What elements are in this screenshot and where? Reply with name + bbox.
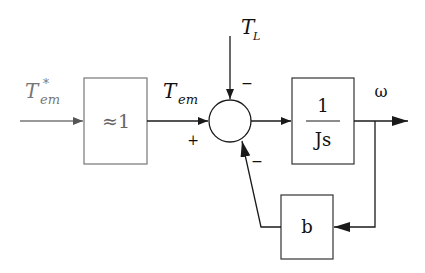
gain-block: ≈1 (84, 78, 147, 164)
svg-text:em: em (178, 92, 198, 107)
minus-sign-top: − (241, 75, 253, 91)
input-label-t-em-star: T em * (25, 77, 60, 107)
svg-text:T: T (163, 79, 178, 103)
plus-sign: + (187, 132, 199, 148)
minus-sign-bottom: − (251, 153, 263, 169)
plant-block: 1 Js (292, 78, 354, 164)
electromagnetic-torque-label: T em (163, 79, 198, 107)
damping-block-label: b (301, 216, 313, 237)
gain-block-label: ≈1 (102, 110, 130, 132)
svg-text:em: em (40, 92, 60, 107)
load-torque-label: T L (241, 15, 260, 43)
svg-text:*: * (43, 77, 49, 91)
svg-text:T: T (25, 79, 40, 103)
block-diagram: T em * ≈1 T em + T L − 1 Js ω b − (0, 0, 425, 273)
damping-block: b (281, 195, 333, 259)
plant-numerator: 1 (317, 95, 328, 116)
omega-label: ω (374, 82, 387, 101)
svg-text:L: L (252, 30, 260, 43)
plant-denominator: Js (313, 129, 331, 150)
summing-junction (209, 100, 251, 142)
